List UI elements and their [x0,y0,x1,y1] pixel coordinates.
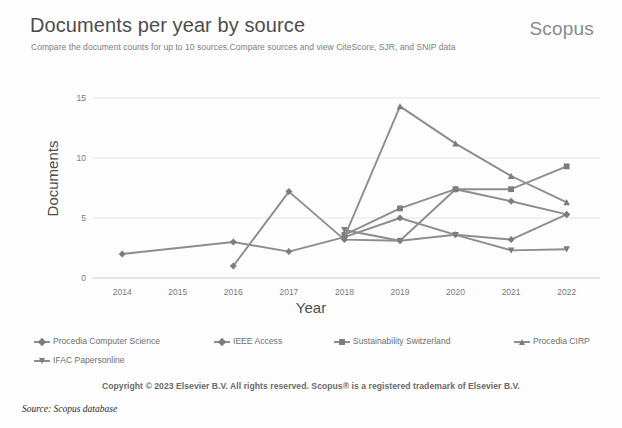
data-point [397,206,403,212]
svg-text:2018: 2018 [335,287,354,297]
chart-subtitle: Compare the document counts for up to 10… [31,42,456,52]
y-axis-title: Documents [44,119,61,239]
data-point [508,198,515,205]
square-marker-icon [334,337,350,347]
diamond-marker-icon [34,337,50,347]
page-title: Documents per year by source [30,14,305,37]
data-point [397,215,404,222]
data-point [563,211,570,218]
legend-item-label: IFAC Papersonline [53,355,125,365]
data-point [397,103,404,109]
data-point [119,251,126,258]
chart-legend: Procedia Computer ScienceIEEE AccessSust… [34,332,594,370]
x-tick-labels: 201420152016201720182019202020212022 [113,287,577,297]
chart-header: Documents per year by source Scopus Comp… [0,0,622,62]
legend-item-label: IEEE Access [233,336,282,346]
legend-row: IFAC Papersonline [34,351,594,370]
data-point [508,236,515,243]
triangle-down-marker-icon [34,356,50,366]
legend-item-label: Procedia Computer Science [53,336,160,346]
svg-text:2014: 2014 [113,287,132,297]
y-tick-labels: 051015 [77,93,87,283]
data-point [508,186,514,192]
data-point [564,164,570,170]
scopus-brand-logo: Scopus [529,18,594,40]
x-axis-title: Year [0,299,622,316]
legend-item-procedia-cirp[interactable]: Procedia CIRP [514,332,590,351]
source-note: Source: Scopus database [22,404,117,414]
legend-row: Procedia Computer ScienceIEEE AccessSust… [34,332,594,351]
chart-page: Documents per year by source Scopus Comp… [0,0,622,428]
svg-text:2020: 2020 [446,287,465,297]
data-point [230,239,237,246]
svg-text:2016: 2016 [224,287,243,297]
svg-text:5: 5 [81,213,86,223]
chart-plot-area: 051015 201420152016201720182019202020212… [0,62,622,314]
svg-text:2017: 2017 [279,287,298,297]
svg-text:2022: 2022 [557,287,576,297]
svg-text:2015: 2015 [168,287,187,297]
series-ieee-access [230,186,570,270]
legend-item-ifac-papersonline[interactable]: IFAC Papersonline [34,351,214,370]
legend-item-sustainability-switzerland[interactable]: Sustainability Switzerland [334,332,514,351]
legend-item-procedia-computer-science[interactable]: Procedia Computer Science [34,332,214,351]
svg-text:15: 15 [77,93,87,103]
series-layer [119,103,570,269]
svg-text:0: 0 [81,273,86,283]
legend-item-label: Procedia CIRP [533,336,590,346]
data-point [285,248,292,255]
legend-item-ieee-access[interactable]: IEEE Access [214,332,334,351]
copyright-notice: Copyright © 2023 Elsevier B.V. All right… [0,381,622,391]
svg-text:10: 10 [77,153,87,163]
line-chart-svg: 051015 201420152016201720182019202020212… [0,62,622,314]
legend-item-label: Sustainability Switzerland [353,336,450,346]
triangle-up-marker-icon [514,337,530,347]
svg-text:2021: 2021 [502,287,521,297]
diamond-marker-icon [214,337,230,347]
svg-text:2019: 2019 [391,287,410,297]
data-point [453,186,459,192]
